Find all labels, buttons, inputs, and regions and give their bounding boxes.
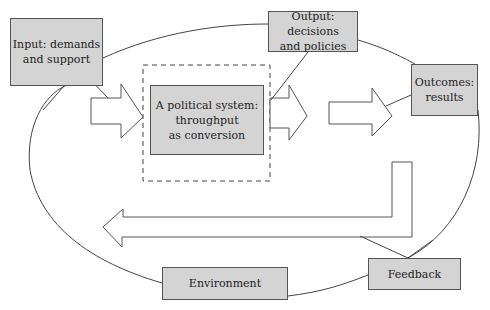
political-system-label: A political system: throughput as conver… xyxy=(156,98,258,143)
output-label: Output: decisions and policies xyxy=(269,9,357,54)
output-arrow-icon xyxy=(270,85,307,140)
feedback-connector-left xyxy=(360,236,408,258)
outcome-arrow-icon xyxy=(329,88,392,136)
input-label: Input: demands and support xyxy=(13,37,101,67)
output-box: Output: decisions and policies xyxy=(268,11,358,52)
environment-box: Environment xyxy=(162,267,288,300)
input-box: Input: demands and support xyxy=(10,18,103,86)
feedback-label: Feedback xyxy=(388,267,442,282)
outcomes-label: Outcomes: results xyxy=(415,75,475,105)
feedback-loop-arrow-icon xyxy=(103,162,412,247)
outcomes-connector xyxy=(386,95,411,106)
input-arrow-icon xyxy=(91,84,143,138)
feedback-box: Feedback xyxy=(368,258,461,290)
feedback-connector-right xyxy=(408,240,433,258)
outcomes-box: Outcomes: results xyxy=(411,64,478,116)
political-system-box: A political system: throughput as conver… xyxy=(150,85,264,155)
environment-label: Environment xyxy=(189,276,261,291)
input-ellipse-connector xyxy=(43,86,64,110)
